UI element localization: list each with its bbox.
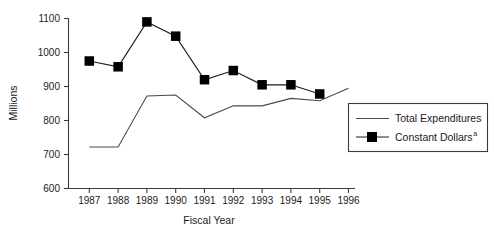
x-tick-label: 1991 [193,195,216,206]
data-point-marker [142,17,152,27]
legend-box [349,104,488,152]
legend-label-constant-dollars: Constant Dollars [395,131,473,143]
x-tick-label: 1996 [337,195,360,206]
data-point-marker [171,31,181,41]
data-point-marker [200,75,210,85]
data-point-marker [257,80,267,90]
data-point-marker [229,66,239,76]
y-axis-title: Millions [7,85,19,120]
data-point-marker [315,89,325,99]
x-tick-label: 1990 [165,195,188,206]
x-tick-label: 1994 [280,195,303,206]
y-tick-label: 1100 [38,13,60,24]
series-constant-dollars-markers [85,17,325,99]
x-tick-label: 1988 [107,195,130,206]
data-point-marker [85,56,95,66]
x-tick-label: 1987 [78,195,101,206]
y-axis-tick-labels: 1100 1000 900 800 700 600 [38,13,61,194]
y-axis-ticks [64,19,69,189]
x-tick-label: 1989 [136,195,159,206]
y-tick-label: 600 [43,183,60,194]
line-chart: 1100 1000 900 800 700 600 1987 1988 1989… [0,0,494,239]
x-tick-label: 1995 [309,195,332,206]
chart-container: 1100 1000 900 800 700 600 1987 1988 1989… [0,0,494,239]
legend-superscript-constant-dollars: a [473,130,477,137]
series-total-expenditures [89,88,348,147]
y-tick-label: 800 [43,115,60,126]
legend-marker-constant-dollars [367,132,377,142]
y-tick-label: 700 [43,149,60,160]
x-axis-title: Fiscal Year [183,214,235,226]
data-point-marker [286,80,296,90]
x-tick-label: 1993 [251,195,274,206]
x-axis-ticks [89,189,348,194]
legend-label-total-expenditures: Total Expenditures [395,112,481,124]
x-axis-tick-labels: 1987 1988 1989 1990 1991 1992 1993 1994 … [78,195,360,206]
y-tick-label: 900 [43,81,60,92]
y-tick-label: 1000 [38,47,61,58]
data-point-marker [113,62,123,72]
x-tick-label: 1992 [222,195,245,206]
legend: Total Expenditures Constant Dollars a [349,104,488,152]
